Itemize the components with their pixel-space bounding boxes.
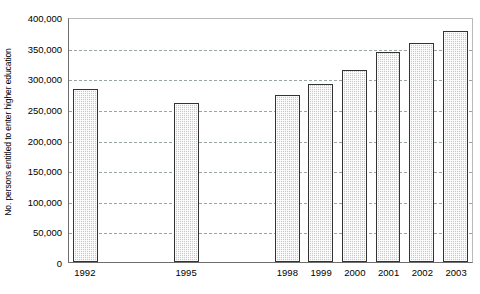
bar-slot bbox=[203, 19, 237, 262]
y-axis-tick-label: 250,000 bbox=[28, 104, 62, 115]
bar-chart: No. persons entitled to enter higher edu… bbox=[0, 0, 480, 294]
x-axis-tick-label: 2002 bbox=[406, 266, 440, 286]
y-axis-tick-label: 150,000 bbox=[28, 166, 62, 177]
x-axis-tick-blank bbox=[136, 266, 170, 286]
bar-slot bbox=[304, 19, 338, 262]
bar[interactable] bbox=[376, 52, 401, 262]
y-axis-title-text: No. persons entitled to enter higher edu… bbox=[3, 48, 13, 215]
bar[interactable] bbox=[308, 84, 333, 262]
bar[interactable] bbox=[409, 43, 434, 262]
x-axis-tick-label: 2000 bbox=[338, 266, 372, 286]
bar-slot bbox=[103, 19, 137, 262]
x-axis-tick-blank bbox=[237, 266, 271, 286]
bar-slot bbox=[371, 19, 405, 262]
y-axis-tick-label: 200,000 bbox=[28, 135, 62, 146]
bar-slot bbox=[136, 19, 170, 262]
y-axis-tick-label: 400,000 bbox=[28, 13, 62, 24]
bar[interactable] bbox=[174, 103, 199, 262]
bars-layer bbox=[69, 19, 472, 262]
bar[interactable] bbox=[342, 70, 367, 262]
y-axis-tick-label: 350,000 bbox=[28, 43, 62, 54]
x-axis-tick-label: 1999 bbox=[304, 266, 338, 286]
x-axis-tick-blank bbox=[203, 266, 237, 286]
bar-slot bbox=[405, 19, 439, 262]
y-axis-tick-label: 50,000 bbox=[33, 227, 62, 238]
plot-area bbox=[68, 18, 473, 263]
x-axis-tick-labels: 1992 1995 199819992000200120022003 bbox=[68, 266, 473, 286]
y-axis-tick-labels: 050,000100,000150,000200,000250,000300,0… bbox=[16, 0, 66, 294]
y-axis-tick-label: 100,000 bbox=[28, 196, 62, 207]
x-axis-tick-label: 2001 bbox=[372, 266, 406, 286]
x-axis-tick-label: 1998 bbox=[271, 266, 305, 286]
bar[interactable] bbox=[443, 31, 468, 262]
y-axis-title: No. persons entitled to enter higher edu… bbox=[0, 0, 16, 264]
x-axis-tick-label: 1992 bbox=[68, 266, 102, 286]
bar-slot bbox=[237, 19, 271, 262]
bar-slot bbox=[170, 19, 204, 262]
y-axis-tick-label: 300,000 bbox=[28, 74, 62, 85]
bar[interactable] bbox=[73, 89, 98, 262]
bar-slot bbox=[438, 19, 472, 262]
y-axis-tick-label: 0 bbox=[57, 258, 62, 269]
bar-slot bbox=[338, 19, 372, 262]
bar-slot bbox=[69, 19, 103, 262]
bar-slot bbox=[270, 19, 304, 262]
x-axis-tick-label: 2003 bbox=[439, 266, 473, 286]
x-axis-tick-label: 1995 bbox=[169, 266, 203, 286]
bar[interactable] bbox=[275, 95, 300, 262]
x-axis-tick-blank bbox=[102, 266, 136, 286]
